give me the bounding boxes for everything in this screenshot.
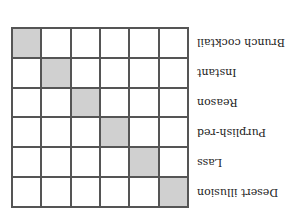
matrix-cell <box>71 118 100 148</box>
matrix-cell <box>71 177 100 207</box>
matrix-cell <box>71 28 100 58</box>
row-label: Desert illusion <box>197 178 285 208</box>
matrix-cell <box>100 88 129 118</box>
row-label: Instant <box>197 57 285 87</box>
matrix-cell <box>12 28 41 58</box>
matrix-cell <box>100 147 129 177</box>
matrix-cell <box>129 147 158 177</box>
matrix-cell <box>159 88 188 118</box>
matrix-grid <box>11 27 189 208</box>
matrix-cell <box>159 147 188 177</box>
matrix-cell <box>159 28 188 58</box>
matrix-cell <box>41 177 70 207</box>
matrix-cell <box>100 28 129 58</box>
matrix-cell <box>41 28 70 58</box>
matrix-cell <box>12 88 41 118</box>
matrix-cell <box>41 118 70 148</box>
matrix-cell <box>159 58 188 88</box>
matrix-cell <box>100 177 129 207</box>
row-label: Reason <box>197 87 285 117</box>
matrix-cell <box>129 28 158 58</box>
row-label: Purplish-red <box>197 117 285 147</box>
row-label: Brunch cocktail <box>197 27 285 57</box>
matrix-cell <box>100 118 129 148</box>
matrix-cell <box>41 58 70 88</box>
matrix-cell <box>129 58 158 88</box>
matrix-cell <box>12 147 41 177</box>
row-labels: Desert illusion Lass Purplish-red Reason… <box>197 27 285 208</box>
matrix-cell <box>71 147 100 177</box>
matrix-cell <box>12 58 41 88</box>
matrix-cell <box>12 177 41 207</box>
matrix-cell <box>129 118 158 148</box>
matrix-cell <box>12 118 41 148</box>
row-label: Lass <box>197 148 285 178</box>
matrix-cell <box>129 88 158 118</box>
matrix-cell <box>71 88 100 118</box>
matrix-cell <box>41 88 70 118</box>
matrix-cell <box>159 177 188 207</box>
matrix-cell <box>71 58 100 88</box>
matrix-cell <box>41 147 70 177</box>
matrix-cell <box>100 58 129 88</box>
matrix-cell <box>129 177 158 207</box>
rotated-diagram: Desert illusion Lass Purplish-red Reason… <box>0 0 293 223</box>
matrix-cell <box>159 118 188 148</box>
